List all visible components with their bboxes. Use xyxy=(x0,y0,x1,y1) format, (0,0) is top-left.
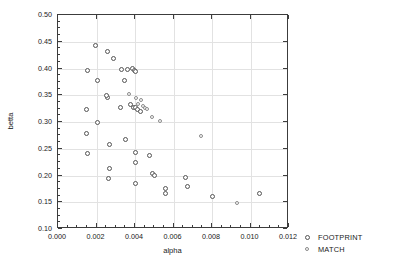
x-axis-minor-tick xyxy=(182,225,183,227)
y-axis-minor-tick xyxy=(58,114,60,115)
x-axis-minor-tick xyxy=(105,225,106,227)
data-point-footprint xyxy=(147,153,152,158)
data-point-footprint xyxy=(85,68,90,73)
x-axis-tick-label: 0.010 xyxy=(241,232,259,241)
gridline-horizontal xyxy=(58,202,287,203)
legend-marker-icon xyxy=(301,235,313,240)
data-point-footprint xyxy=(105,49,110,54)
legend-item-footprint[interactable]: FOOTPRINT xyxy=(301,231,393,243)
x-axis-minor-tick xyxy=(57,225,58,227)
x-axis-minor-tick xyxy=(153,225,154,227)
x-axis-tick xyxy=(173,15,174,19)
y-axis-minor-tick xyxy=(58,27,60,28)
gridline-horizontal xyxy=(58,122,287,123)
circle-icon xyxy=(305,247,309,251)
y-axis-minor-tick xyxy=(58,161,60,162)
x-axis-minor-tick xyxy=(201,225,202,227)
legend-marker-icon xyxy=(301,247,313,251)
x-axis-tick xyxy=(211,15,212,19)
x-axis-minor-tick xyxy=(211,225,212,227)
y-axis-tick-label: 0.15 xyxy=(24,197,52,206)
y-axis-tick xyxy=(283,68,287,69)
chart-legend: FOOTPRINTMATCH xyxy=(301,231,393,255)
data-point-footprint xyxy=(133,69,138,74)
x-axis-minor-tick xyxy=(269,225,270,227)
y-axis-minor-tick xyxy=(58,154,60,155)
data-point-footprint xyxy=(106,176,111,181)
data-point-footprint xyxy=(257,191,262,196)
y-axis-minor-tick xyxy=(58,195,60,196)
y-axis-tick xyxy=(283,14,287,15)
data-point-footprint xyxy=(119,67,124,72)
data-point-footprint xyxy=(163,191,168,196)
x-axis-tick xyxy=(57,15,58,19)
y-axis-minor-tick xyxy=(58,74,60,75)
y-axis-minor-tick xyxy=(58,108,60,109)
x-axis-minor-tick xyxy=(230,225,231,227)
gridline-vertical xyxy=(174,15,175,227)
data-point-footprint xyxy=(85,151,90,156)
gridline-horizontal xyxy=(58,176,287,177)
y-axis-tick-label: 0.50 xyxy=(24,10,52,19)
data-point-footprint xyxy=(95,120,100,125)
y-axis-minor-tick xyxy=(58,134,60,135)
y-axis-tick xyxy=(283,228,287,229)
x-axis-minor-tick xyxy=(134,225,135,227)
y-axis-minor-tick xyxy=(58,54,60,55)
data-point-footprint xyxy=(152,173,157,178)
data-point-footprint xyxy=(185,184,190,189)
legend-item-match[interactable]: MATCH xyxy=(301,243,393,255)
x-axis-tick xyxy=(96,15,97,19)
data-point-footprint xyxy=(122,78,127,83)
x-axis-minor-tick xyxy=(163,225,164,227)
data-point-footprint xyxy=(123,137,128,142)
gridline-horizontal xyxy=(58,69,287,70)
circle-icon xyxy=(305,235,310,240)
y-axis-tick-label: 0.20 xyxy=(24,170,52,179)
legend-label: MATCH xyxy=(318,245,345,254)
x-axis-tick-label: 0.002 xyxy=(87,232,105,241)
data-point-footprint xyxy=(133,181,138,186)
y-axis-minor-tick xyxy=(58,47,60,48)
y-axis-title: betta xyxy=(6,113,15,130)
x-axis-minor-tick xyxy=(173,225,174,227)
y-axis-minor-tick xyxy=(58,121,60,122)
x-axis-minor-tick xyxy=(259,225,260,227)
y-axis-tick-label: 0.30 xyxy=(24,117,52,126)
x-axis-minor-tick xyxy=(192,225,193,227)
y-axis-tick xyxy=(283,148,287,149)
data-point-match xyxy=(235,201,239,205)
data-point-footprint xyxy=(84,131,89,136)
y-axis-minor-tick xyxy=(58,201,60,202)
x-axis-tick-label: 0.008 xyxy=(202,232,220,241)
y-axis-minor-tick xyxy=(58,141,60,142)
y-axis-minor-tick xyxy=(58,41,60,42)
y-axis-tick-label: 0.35 xyxy=(24,90,52,99)
x-axis-minor-tick xyxy=(250,225,251,227)
gridline-horizontal xyxy=(58,42,287,43)
data-point-match xyxy=(145,107,149,111)
legend-label: FOOTPRINT xyxy=(318,233,363,242)
data-point-footprint xyxy=(84,107,89,112)
data-point-match xyxy=(134,96,138,100)
y-axis-tick xyxy=(283,121,287,122)
y-axis-tick xyxy=(283,201,287,202)
x-axis-tick-label: 0.000 xyxy=(48,232,66,241)
x-axis-minor-tick xyxy=(67,225,68,227)
x-axis-tick-label: 0.006 xyxy=(164,232,182,241)
y-axis-tick xyxy=(283,41,287,42)
y-axis-minor-tick xyxy=(58,208,60,209)
y-axis-minor-tick xyxy=(58,215,60,216)
data-point-footprint xyxy=(183,175,188,180)
data-point-match xyxy=(199,134,203,138)
y-axis-tick-label: 0.40 xyxy=(24,63,52,72)
x-axis-minor-tick xyxy=(115,225,116,227)
y-axis-minor-tick xyxy=(58,168,60,169)
data-point-footprint xyxy=(107,142,112,147)
gridline-vertical xyxy=(251,15,252,227)
x-axis-title: alpha xyxy=(57,246,288,255)
x-axis-minor-tick xyxy=(278,225,279,227)
y-axis-minor-tick xyxy=(58,228,60,229)
data-point-footprint xyxy=(93,43,98,48)
y-axis-minor-tick xyxy=(58,21,60,22)
